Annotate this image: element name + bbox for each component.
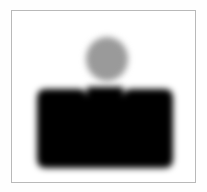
figure-body-svg [31, 81, 181, 176]
figure-body-block [31, 81, 181, 176]
body-base-bar [37, 125, 173, 168]
framed-panel [11, 10, 196, 183]
image-canvas [0, 0, 207, 192]
figure-head-circle [86, 37, 128, 81]
body-right-arm [123, 89, 173, 129]
body-left-arm [37, 89, 87, 129]
body-center-tooth [87, 87, 123, 131]
